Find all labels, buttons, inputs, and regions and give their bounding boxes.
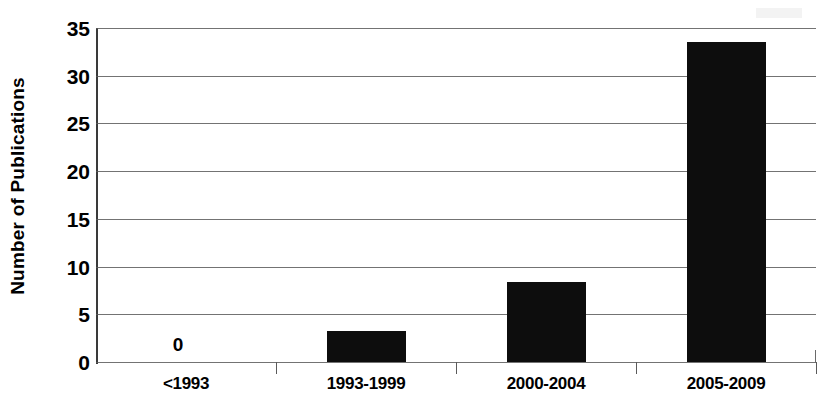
plot-area: 0 [96,28,816,362]
x-axis-label-2005-2009: 2005-2009 [687,374,766,394]
y-tick-label-15: 15 [40,208,90,229]
x-tick-4 [816,362,817,374]
scan-artifact [756,8,802,18]
bar-2005-2009 [687,42,766,362]
y-tick-label-25: 25 [40,113,90,134]
y-tick-label-20: 20 [40,161,90,182]
x-tick-1 [276,362,277,374]
x-tick-2 [456,362,457,374]
y-tick-label-30: 30 [40,65,90,86]
y-tick-label-10: 10 [40,256,90,277]
x-axis-label-<1993: <1993 [163,374,209,394]
x-axis-tick-labels: <19931993-19992000-20042005-2009 [96,374,816,404]
y-axis-title: Number of Publications [0,0,36,372]
x-axis-label-1993-1999: 1993-1999 [327,374,406,394]
bar-1993-1999 [327,331,406,362]
bar-2000-2004 [507,282,586,362]
bar-value-label-<1993: 0 [173,334,184,356]
y-tick-label-35: 35 [40,18,90,39]
y-axis-title-text: Number of Publications [7,77,29,295]
bar-chart: Number of Publications 05101520253035 0 … [0,0,829,408]
gridline-35 [96,28,816,29]
y-tick-label-0: 0 [40,352,90,373]
x-tick-3 [636,362,637,374]
y-tick-label-5: 5 [40,304,90,325]
y-axis-tick-labels: 05101520253035 [40,0,90,408]
x-axis-label-2000-2004: 2000-2004 [507,374,586,394]
